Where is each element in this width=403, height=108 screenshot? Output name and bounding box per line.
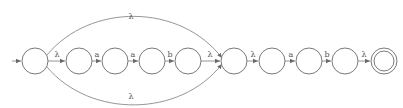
automaton-diagram: λ λ λ a a b λ λ a b λ <box>0 0 403 108</box>
state-q9-final-inner <box>374 51 394 71</box>
state-q4 <box>175 48 201 74</box>
label-q3-q4: b <box>167 50 172 59</box>
label-q8-q9: λ <box>361 50 366 59</box>
state-q3 <box>139 48 165 74</box>
label-q4-q5: λ <box>207 50 212 59</box>
label-q7-q8: b <box>324 50 329 59</box>
state-q1 <box>66 48 92 74</box>
state-q0 <box>22 48 48 74</box>
label-lower-arc: λ <box>128 92 133 101</box>
label-q6-q7: a <box>289 50 294 59</box>
state-q2 <box>102 48 128 74</box>
label-q0-q1: λ <box>54 50 59 59</box>
state-q7 <box>296 48 322 74</box>
state-q6 <box>259 48 285 74</box>
label-q1-q2: a <box>95 50 100 59</box>
label-upper-arc: λ <box>128 12 133 21</box>
label-q5-q6: λ <box>250 50 255 59</box>
state-q8 <box>332 48 358 74</box>
label-q2-q3: a <box>131 50 136 59</box>
state-q5 <box>221 48 247 74</box>
